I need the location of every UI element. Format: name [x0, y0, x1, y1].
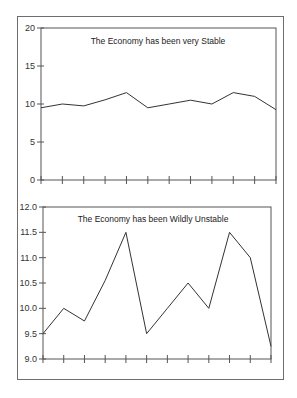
- y-axis-ticks: 9.09.510.010.511.011.512.0: [19, 202, 46, 364]
- y-tick-label: 9.5: [24, 329, 37, 339]
- data-line: [43, 232, 271, 346]
- y-tick-label: 15: [25, 61, 35, 71]
- y-tick-label: 10.0: [19, 303, 37, 313]
- plot-area-border: [41, 28, 276, 180]
- y-tick-label: 9.0: [24, 354, 37, 364]
- y-tick-label: 11.5: [20, 227, 37, 237]
- y-tick-label: 10: [25, 99, 35, 109]
- y-tick-label: 20: [25, 23, 35, 33]
- charts-canvas: The Economy has been very Stable 0510152…: [0, 0, 297, 398]
- data-line: [41, 93, 276, 110]
- unstable-economy-chart: The Economy has been Wildly Unstable 9.0…: [19, 202, 271, 364]
- y-tick-label: 11.0: [20, 253, 37, 263]
- y-tick-label: 12.0: [19, 202, 37, 212]
- y-tick-label: 0: [30, 175, 35, 185]
- plot-area-border: [43, 207, 271, 359]
- y-tick-label: 10.5: [19, 278, 37, 288]
- y-tick-label: 5: [30, 137, 35, 147]
- chart-title: The Economy has been Wildly Unstable: [78, 214, 229, 224]
- chart-title: The Economy has been very Stable: [91, 36, 226, 46]
- stable-economy-chart: The Economy has been very Stable 0510152…: [25, 23, 276, 185]
